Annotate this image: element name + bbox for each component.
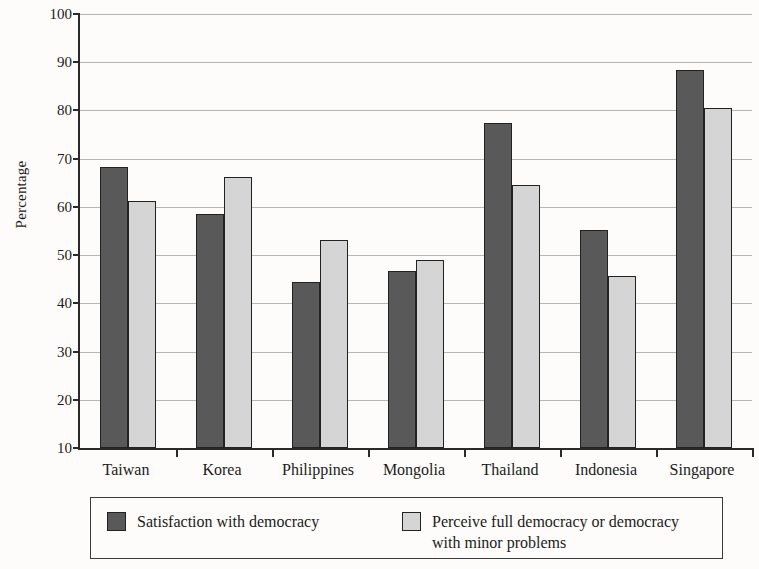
x-axis-tick [176, 448, 178, 457]
bar-taiwan-series-0 [100, 167, 128, 448]
y-axis-tick-label: 10 [28, 441, 72, 456]
x-axis-label-thailand: Thailand [462, 462, 558, 478]
y-axis-tick-label: 60 [28, 199, 72, 214]
x-axis-tick [656, 448, 658, 457]
gridline [80, 255, 752, 256]
x-axis-label-singapore: Singapore [654, 462, 750, 478]
bar-korea-series-1 [224, 177, 252, 448]
gridline [80, 159, 752, 160]
y-axis-tick [73, 109, 80, 111]
y-axis-tick-label: 80 [28, 103, 72, 118]
y-axis-tick [73, 206, 80, 208]
bar-indonesia-series-1 [608, 276, 636, 448]
x-axis-label-korea: Korea [174, 462, 270, 478]
y-axis-tick-label: 70 [28, 151, 72, 166]
x-axis-label-taiwan: Taiwan [78, 462, 174, 478]
y-axis-tick [73, 351, 80, 353]
gridline [80, 62, 752, 63]
y-axis-tick [73, 399, 80, 401]
gridline [80, 110, 752, 111]
y-axis-tick-label: 20 [28, 392, 72, 407]
legend-label: Perceive full democracy or democracy wit… [432, 511, 679, 553]
y-axis-tick [73, 254, 80, 256]
bar-taiwan-series-1 [128, 201, 156, 448]
bar-mongolia-series-0 [388, 271, 416, 448]
x-axis-tick [272, 448, 274, 457]
x-axis-tick [464, 448, 466, 457]
bar-philippines-series-1 [320, 240, 348, 448]
plot-area: 102030405060708090100 [78, 14, 752, 450]
legend-swatch-icon [402, 512, 421, 531]
plot-inner: 102030405060708090100 [80, 14, 752, 448]
x-axis-label-mongolia: Mongolia [366, 462, 462, 478]
y-axis-tick-label: 50 [28, 248, 72, 263]
y-axis-tick-label: 40 [28, 296, 72, 311]
gridline [80, 14, 752, 15]
y-axis-tick [73, 447, 80, 449]
bar-chart: Percentage 102030405060708090100 TaiwanK… [0, 0, 759, 569]
y-axis-tick-label: 90 [28, 55, 72, 70]
bar-indonesia-series-0 [580, 230, 608, 448]
x-axis-label-indonesia: Indonesia [558, 462, 654, 478]
gridline [80, 207, 752, 208]
y-axis-tick [73, 158, 80, 160]
bar-mongolia-series-1 [416, 260, 444, 448]
y-axis-tick-label: 30 [28, 344, 72, 359]
x-axis-tick [368, 448, 370, 457]
bar-philippines-series-0 [292, 282, 320, 448]
y-axis-tick [73, 302, 80, 304]
bar-singapore-series-0 [676, 70, 704, 448]
x-axis-label-philippines: Philippines [270, 462, 366, 478]
legend-swatch-icon [107, 512, 126, 531]
x-axis-tick [560, 448, 562, 457]
chart-legend: Satisfaction with democracy Perceive ful… [90, 497, 723, 559]
bar-thailand-series-1 [512, 185, 540, 448]
y-axis-tick-label: 100 [28, 7, 72, 22]
y-axis-tick [73, 61, 80, 63]
bar-korea-series-0 [196, 214, 224, 448]
bar-singapore-series-1 [704, 108, 732, 448]
legend-item-satisfaction: Satisfaction with democracy [107, 511, 319, 532]
x-axis-tick [752, 448, 754, 457]
y-axis-title: Percentage [13, 135, 30, 255]
legend-label: Satisfaction with democracy [137, 511, 319, 532]
bar-thailand-series-0 [484, 123, 512, 449]
legend-item-perceive-full-democracy: Perceive full democracy or democracy wit… [402, 511, 679, 553]
y-axis-tick [73, 13, 80, 15]
